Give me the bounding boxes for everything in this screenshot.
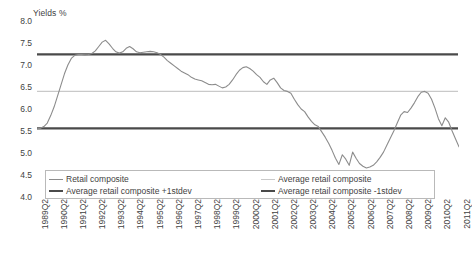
- legend-item-retail-composite[interactable]: Retail composite: [49, 175, 261, 184]
- legend-row-2: Average retail composite +1stdev Average…: [49, 185, 434, 197]
- x-axis-tick-label: 2008Q2: [405, 199, 414, 229]
- x-axis-tick-label: 2001Q2: [271, 199, 280, 229]
- y-axis-tick-label: 6.0: [4, 105, 32, 114]
- x-axis-tick-label: 1990Q2: [60, 199, 69, 229]
- x-axis-tick-label: 2003Q2: [309, 199, 318, 229]
- legend-row-1: Retail composite Average retail composit…: [49, 173, 434, 185]
- x-axis-tick-label: 1996Q2: [175, 199, 184, 229]
- x-axis-tick-label: 1998Q2: [213, 199, 222, 229]
- legend-label: Average retail composite +1stdev: [66, 187, 192, 196]
- x-axis-tick-label: 1989Q2: [41, 199, 50, 229]
- data-series-line: [37, 40, 459, 168]
- x-axis-tick-label: 2007Q2: [386, 199, 395, 229]
- legend-label: Average retail composite -1stdev: [278, 187, 402, 196]
- x-axis-tick-label: 2006Q2: [367, 199, 376, 229]
- y-axis-tick-label: 4.5: [4, 171, 32, 180]
- y-axis-tick-label: 6.5: [4, 83, 32, 92]
- y-axis-tick-labels: 8.07.57.06.56.05.55.04.54.0: [0, 0, 32, 261]
- x-axis-tick-label: 2010Q2: [443, 199, 452, 229]
- x-axis-tick-label: 2000Q2: [252, 199, 261, 229]
- x-axis-tick-label: 2011Q2: [463, 199, 472, 229]
- x-axis-tick-label: 1993Q2: [117, 199, 126, 229]
- legend-swatch-icon: [49, 179, 63, 180]
- legend-label: Retail composite: [66, 175, 129, 184]
- chart-legend: Retail composite Average retail composit…: [45, 170, 435, 199]
- legend-label: Average retail composite: [278, 175, 371, 184]
- x-axis-tick-label: 1992Q2: [98, 199, 107, 229]
- x-axis-tick-label: 2004Q2: [328, 199, 337, 229]
- y-axis-tick-label: 5.5: [4, 127, 32, 136]
- y-axis-title: Yields %: [33, 8, 67, 18]
- legend-swatch-icon: [261, 179, 275, 180]
- y-axis-tick-label: 4.0: [4, 193, 32, 202]
- legend-item-average-retail-composite[interactable]: Average retail composite: [261, 175, 371, 184]
- x-axis-tick-labels: 1989Q21990Q21991Q21992Q21993Q21994Q21995…: [37, 197, 459, 261]
- x-axis-tick-label: 1994Q2: [136, 199, 145, 229]
- legend-swatch-icon: [261, 190, 275, 192]
- x-axis-tick-label: 1999Q2: [232, 199, 241, 229]
- x-axis-tick-label: 2002Q2: [290, 199, 299, 229]
- y-axis-tick-label: 7.0: [4, 61, 32, 70]
- legend-item-average-minus-1stdev[interactable]: Average retail composite -1stdev: [261, 187, 402, 196]
- legend-swatch-icon: [49, 190, 63, 192]
- legend-item-average-plus-1stdev[interactable]: Average retail composite +1stdev: [49, 187, 261, 196]
- x-axis-tick-label: 1995Q2: [156, 199, 165, 229]
- y-axis-tick-label: 8.0: [4, 17, 32, 26]
- x-axis-tick-label: 2009Q2: [424, 199, 433, 229]
- y-axis-tick-label: 5.0: [4, 149, 32, 158]
- x-axis-tick-label: 2005Q2: [347, 199, 356, 229]
- y-axis-tick-label: 7.5: [4, 39, 32, 48]
- x-axis-tick-label: 1991Q2: [79, 199, 88, 229]
- x-axis-tick-label: 1997Q2: [194, 199, 203, 229]
